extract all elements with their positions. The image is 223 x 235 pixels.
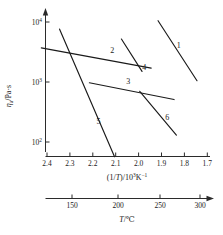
x-tick-label-1.7: 1.7 <box>203 159 213 168</box>
x-tick-label-300C: 300 <box>194 201 206 210</box>
series-line-1 <box>158 21 197 81</box>
x-axis-temperature-celsius: 150 200 250 300 T/℃ <box>46 195 215 225</box>
x-axis-reciprocal-temperature: 2.4 2.3 2.2 2.1 2.0 1.9 1.8 1.7 (1/T)/10… <box>42 153 212 183</box>
x-tick-label-1.9: 1.9 <box>157 159 167 168</box>
series-label-1: 1 <box>177 41 181 50</box>
y-axis: 104 103 102 <box>32 8 50 152</box>
series-label-2: 2 <box>110 46 114 55</box>
y-tick-label-1e2: 102 <box>32 137 43 147</box>
series-label-4: 4 <box>142 63 146 72</box>
y-axis-title: ηa/Pa·s <box>4 85 14 107</box>
y-tick-label-1e3: 103 <box>32 77 43 87</box>
series-label-3: 3 <box>126 77 130 86</box>
x-axis-secondary-title: T/℃ <box>119 215 135 224</box>
data-series-group <box>41 21 197 157</box>
y-tick-label-1e4: 104 <box>32 17 43 27</box>
x-tick-label-2.0: 2.0 <box>134 159 144 168</box>
series-line-5 <box>60 29 115 156</box>
series-line-4 <box>121 39 142 71</box>
svg-text:ηa/Pa·s: ηa/Pa·s <box>4 85 14 107</box>
viscosity-temperature-chart: 104 103 102 ηa/Pa·s 2.4 2.3 2.2 2.1 2.0 … <box>0 0 223 235</box>
chart-canvas: 104 103 102 ηa/Pa·s 2.4 2.3 2.2 2.1 2.0 … <box>0 0 223 235</box>
series-line-6 <box>140 91 177 135</box>
series-line-3 <box>89 83 174 100</box>
x-tick-label-250C: 250 <box>154 201 166 210</box>
series-label-5: 5 <box>97 117 101 126</box>
y-axis-arrow <box>43 8 48 16</box>
x-tick-label-1.8: 1.8 <box>180 159 190 168</box>
series-line-2 <box>41 48 151 68</box>
x-tick-label-2.1: 2.1 <box>111 159 121 168</box>
series-label-6: 6 <box>165 113 169 122</box>
x-tick-label-2.3: 2.3 <box>65 159 75 168</box>
x-axis-primary-title: (1/T)/103K−1 <box>107 172 148 182</box>
x-axis-secondary-arrow <box>207 196 215 201</box>
x-tick-label-2.4: 2.4 <box>42 159 52 168</box>
x-tick-label-150C: 150 <box>66 201 78 210</box>
series-label-group: 123456 <box>97 41 181 126</box>
x-tick-label-200C: 200 <box>112 201 124 210</box>
x-tick-label-2.2: 2.2 <box>88 159 98 168</box>
